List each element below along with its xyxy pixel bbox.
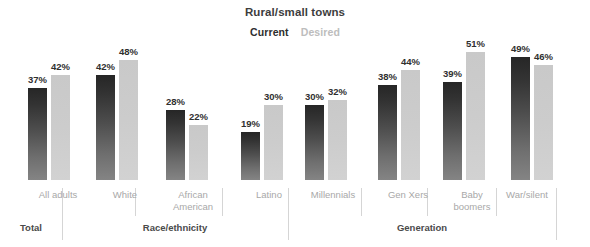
bar-desired[interactable] <box>51 75 70 180</box>
category-label-war-silent: War/silent <box>477 189 577 201</box>
bar-current[interactable] <box>305 105 324 180</box>
bar-current[interactable] <box>443 82 462 180</box>
bar-desired[interactable] <box>264 105 283 180</box>
bar-desired[interactable] <box>466 52 485 180</box>
bar-desired[interactable] <box>534 65 553 180</box>
bar-value-desired: 44% <box>401 56 420 67</box>
bar-desired[interactable] <box>328 100 347 180</box>
bar-value-current: 49% <box>511 43 530 54</box>
bar-current[interactable] <box>241 132 260 180</box>
bar-current[interactable] <box>28 88 47 180</box>
bar-value-desired: 30% <box>264 91 283 102</box>
bar-value-current: 28% <box>166 96 185 107</box>
bar-desired[interactable] <box>189 125 208 180</box>
bar-value-current: 19% <box>241 118 260 129</box>
bar-value-desired: 46% <box>534 51 553 62</box>
bar-value-current: 37% <box>28 74 47 85</box>
plot-area: 37% 42% 42% 48% 28% 22% 19% 30% 30% 32% <box>0 0 590 247</box>
bar-value-desired: 32% <box>328 86 347 97</box>
bar-value-desired: 48% <box>119 46 138 57</box>
bar-current[interactable] <box>378 85 397 180</box>
bar-current[interactable] <box>96 75 115 180</box>
group-label-generation: Generation <box>288 222 556 233</box>
bar-value-current: 38% <box>378 71 397 82</box>
group-label-race-ethnicity: Race/ethnicity <box>62 222 288 233</box>
bar-value-desired: 51% <box>466 38 485 49</box>
bar-desired[interactable] <box>119 60 138 180</box>
bar-value-current: 42% <box>96 61 115 72</box>
chart-container: Rural/small towns CurrentDesired 37% 42%… <box>0 0 590 247</box>
bar-value-current: 30% <box>305 91 324 102</box>
bar-current[interactable] <box>166 110 185 180</box>
bar-value-desired: 42% <box>51 61 70 72</box>
bar-current[interactable] <box>511 57 530 180</box>
bar-desired[interactable] <box>401 70 420 180</box>
bar-value-desired: 22% <box>189 111 208 122</box>
group-label-total: Total <box>0 222 62 233</box>
bar-value-current: 39% <box>443 68 462 79</box>
